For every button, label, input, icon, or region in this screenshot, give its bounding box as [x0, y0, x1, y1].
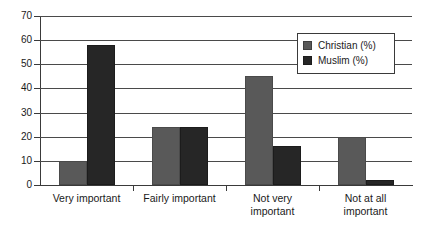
- bar-group: [152, 16, 208, 185]
- x-axis-tick-mark: [226, 185, 227, 191]
- bar: [180, 127, 208, 185]
- legend-swatch-icon: [303, 56, 312, 65]
- x-axis-tick-label: Not at all: [306, 192, 426, 205]
- x-axis-category-label: Not at allimportant: [306, 192, 426, 217]
- legend-swatch-icon: [303, 41, 312, 50]
- legend-item: Christian (%): [303, 38, 389, 53]
- bar-group: [245, 16, 301, 185]
- x-axis-tick-label: important: [306, 205, 426, 218]
- legend-item-label: Muslim (%): [318, 55, 368, 66]
- y-axis-tick-label: 60: [2, 35, 32, 45]
- legend: Christian (%) Muslim (%): [297, 33, 395, 74]
- bar: [273, 146, 301, 185]
- bar: [59, 161, 87, 185]
- y-axis-tick-label: 30: [2, 108, 32, 118]
- x-axis-tick-mark: [319, 185, 320, 191]
- y-axis-tick-label: 20: [2, 132, 32, 142]
- y-axis-tick-label: 0: [2, 180, 32, 190]
- bar-group: [59, 16, 115, 185]
- bar-chart: 010203040506070 Very importantFairly imp…: [0, 0, 428, 242]
- bar: [338, 137, 366, 185]
- bar: [366, 180, 394, 185]
- bar: [245, 76, 273, 185]
- y-axis-tick-label: 50: [2, 59, 32, 69]
- bar: [152, 127, 180, 185]
- legend-item: Muslim (%): [303, 53, 389, 68]
- y-axis-tick-label: 40: [2, 83, 32, 93]
- y-axis-tick-label: 70: [2, 11, 32, 21]
- x-axis-tick-mark: [133, 185, 134, 191]
- bar: [87, 45, 115, 185]
- legend-item-label: Christian (%): [318, 40, 376, 51]
- y-axis-tick-label: 10: [2, 156, 32, 166]
